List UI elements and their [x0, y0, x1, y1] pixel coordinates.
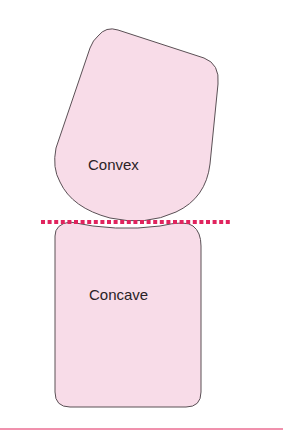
convex-label: Convex [88, 156, 139, 173]
concave-shape [55, 222, 201, 407]
convex-concave-diagram: Convex Concave [0, 0, 283, 434]
convex-shape [55, 29, 219, 221]
concave-label: Concave [89, 286, 148, 303]
